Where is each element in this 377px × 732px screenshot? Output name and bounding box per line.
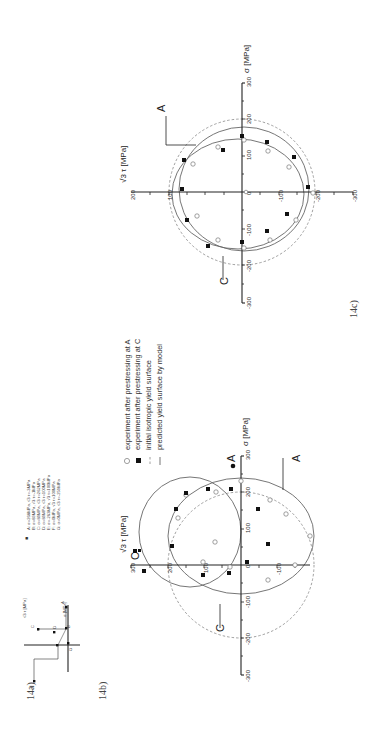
svg-text:-300: -300: [246, 296, 252, 309]
legend-item-predicted: predicted yield surface by model: [155, 344, 164, 450]
legend-item-c: experiment after prestressing at C: [133, 338, 142, 450]
legend-filled-square-icon: [136, 458, 141, 463]
point-f: [56, 644, 58, 646]
svg-text:200: 200: [130, 189, 136, 200]
panel-a-caption: 14a): [25, 682, 37, 700]
panel-b-legend: experiment after prestressing at A exper…: [123, 338, 164, 465]
svg-text:100: 100: [167, 189, 173, 200]
panel-a-legend: ■ A: σ=268MPa, √3 τ=-3MPa B: σ=89MPa, √3…: [23, 474, 61, 540]
svg-text:200: 200: [246, 113, 252, 124]
svg-text:300: 300: [130, 562, 136, 573]
svg-text:-200: -200: [246, 259, 252, 272]
panel-c-plot: 300 200 100 0 -100 -200 -300 200 100 -10…: [119, 45, 360, 318]
panel-b-point-a: [231, 464, 236, 469]
legend-marker: ■: [23, 537, 29, 540]
svg-text:100: 100: [246, 149, 252, 160]
svg-text:200: 200: [245, 486, 251, 497]
point-a: [65, 606, 67, 608]
panel-c-label-c: C: [218, 277, 230, 285]
panel-c-sigma-label: σ [MPa]: [242, 45, 251, 73]
panel-c-caption: 14c): [348, 300, 360, 318]
svg-text:200: 200: [167, 562, 173, 573]
predicted-surface-c-b: [139, 477, 241, 587]
panel-b-label-a: A: [225, 454, 237, 462]
svg-text:300: 300: [246, 76, 252, 87]
panel-b-arrow-label-a: A: [290, 454, 302, 462]
svg-text:D: D: [52, 626, 57, 629]
predicted-surface-a-c: [179, 127, 309, 251]
svg-text:-100: -100: [278, 189, 284, 202]
svg-text:300: 300: [245, 449, 251, 460]
point-c: [37, 628, 39, 630]
svg-text:-200: -200: [315, 189, 321, 202]
legend-item-initial: initial isotropic yield surface: [144, 360, 153, 450]
predicted-surface-c-c: [172, 139, 304, 249]
svg-text:-300: -300: [245, 669, 251, 682]
point-g-def: G: σ=0MPa, √3 τ=-259MPa: [56, 479, 61, 530]
svg-text:A: A: [60, 601, 65, 604]
svg-text:-100: -100: [246, 223, 252, 236]
panel-b-sigma-label: σ [MPa]: [241, 418, 250, 446]
point-d: [53, 631, 55, 633]
svg-text:G: G: [68, 648, 73, 651]
legend-item-a: experiment after prestressing at A: [123, 339, 132, 450]
legend-open-circle-icon: [124, 458, 129, 463]
point-e: [33, 680, 35, 682]
svg-text:-300: -300: [352, 189, 358, 202]
svg-text:B: B: [66, 625, 71, 628]
panel-b-label-c: C: [129, 552, 141, 560]
panel-c-series-a: [191, 138, 315, 250]
panel-b-caption: 14b): [97, 682, 109, 700]
svg-text:C: C: [30, 625, 35, 628]
svg-text:100: 100: [245, 522, 251, 533]
svg-text:-200: -200: [245, 632, 251, 645]
figure-canvas: ■ A: σ=268MPa, √3 τ=-3MPa B: σ=89MPa, √3…: [0, 0, 377, 732]
panel-c-tau-label: √3 τ [MPa]: [119, 146, 128, 183]
svg-text:-100: -100: [276, 562, 282, 575]
panel-b-tau-label: √3 τ [MPa]: [119, 516, 128, 553]
point-g: [67, 642, 69, 644]
panel-a-diagram: √3 τ [MPa] σ [MPa] A B C D E G 14a): [22, 598, 80, 700]
panel-a-tau-label: √3 τ [MPa]: [22, 598, 27, 618]
panel-c-label-a: A: [155, 104, 167, 112]
svg-text:-100: -100: [245, 595, 251, 608]
